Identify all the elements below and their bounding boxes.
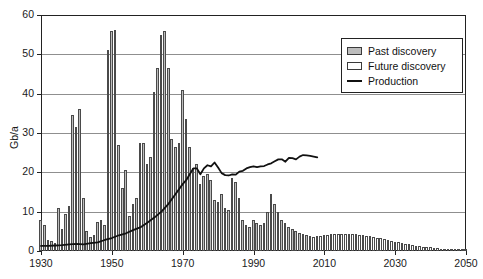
bar — [202, 176, 205, 251]
bar — [266, 212, 269, 251]
bar — [418, 246, 421, 251]
bar — [153, 92, 156, 251]
legend-item-production: Production — [347, 73, 456, 88]
bar — [160, 35, 163, 251]
bar — [270, 194, 273, 251]
bar — [110, 31, 113, 251]
bar — [107, 50, 110, 251]
x-tick-label: 1990 — [234, 258, 274, 269]
bar — [443, 249, 446, 251]
y-tick-mark — [37, 212, 41, 213]
bar — [461, 249, 464, 251]
bar — [355, 234, 358, 251]
bar — [185, 119, 188, 251]
y-tick-mark — [37, 94, 41, 95]
bar — [61, 229, 64, 251]
bar — [277, 212, 280, 251]
bar — [394, 242, 397, 251]
bar — [255, 223, 258, 251]
discovery-production-chart: 0102030405060 19301950197019902010203020… — [0, 0, 483, 279]
bar — [206, 174, 209, 251]
future-discovery-swatch-icon — [347, 62, 362, 70]
bar — [241, 220, 244, 251]
bar — [57, 208, 60, 251]
bar — [348, 234, 351, 251]
bar — [387, 240, 390, 251]
bar — [142, 143, 145, 251]
bar — [231, 178, 234, 251]
bar — [447, 249, 450, 251]
bar — [379, 238, 382, 251]
legend-item-future-discovery: Future discovery — [347, 58, 456, 73]
bar — [146, 164, 149, 251]
bar — [149, 157, 152, 251]
bar — [401, 243, 404, 251]
bar — [383, 239, 386, 251]
bar — [425, 247, 428, 251]
bar — [195, 164, 198, 251]
bar — [404, 244, 407, 251]
bar — [117, 145, 120, 251]
bar — [415, 246, 418, 252]
bar — [298, 233, 301, 251]
bar — [302, 234, 305, 251]
gridline — [42, 172, 465, 173]
x-tick-mark — [41, 251, 42, 255]
bar — [75, 127, 78, 251]
y-tick-mark — [37, 15, 41, 16]
bar — [217, 202, 220, 251]
y-tick-mark — [37, 172, 41, 173]
legend-item-past-discovery: Past discovery — [347, 43, 456, 58]
bar — [280, 220, 283, 251]
bar — [450, 249, 453, 251]
bar — [139, 143, 142, 251]
bar — [344, 234, 347, 251]
bar — [114, 30, 117, 251]
gridline — [42, 212, 465, 213]
bar — [213, 200, 216, 251]
bar — [156, 68, 159, 251]
bar — [82, 198, 85, 251]
bar — [372, 237, 375, 251]
bar — [340, 234, 343, 251]
y-tick-label: 60 — [7, 9, 34, 20]
bar — [323, 235, 326, 251]
x-tick-mark — [324, 251, 325, 255]
bar — [163, 31, 166, 251]
bar — [68, 206, 71, 251]
bar — [319, 236, 322, 251]
bar — [390, 241, 393, 251]
bar — [273, 204, 276, 251]
y-tick-label: 40 — [7, 88, 34, 99]
bar — [167, 68, 170, 251]
bar — [124, 170, 127, 251]
bar — [188, 147, 191, 251]
bar — [408, 244, 411, 251]
bar — [174, 147, 177, 251]
bar — [234, 182, 237, 251]
bar — [128, 216, 131, 251]
bar — [309, 236, 312, 251]
bar — [199, 184, 202, 251]
bar — [433, 248, 436, 251]
production-line-swatch-icon — [347, 80, 362, 82]
x-tick-mark — [466, 251, 467, 255]
bar — [287, 227, 290, 251]
bar — [47, 240, 50, 251]
y-tick-label: 20 — [7, 166, 34, 177]
gridline — [42, 133, 465, 134]
bar — [50, 241, 53, 251]
bar — [397, 242, 400, 251]
x-tick-label: 1970 — [163, 258, 203, 269]
bar — [220, 194, 223, 251]
bar — [78, 109, 81, 251]
bar — [85, 231, 88, 251]
bar — [337, 234, 340, 251]
bar — [181, 90, 184, 251]
bar — [454, 249, 457, 251]
bar — [464, 249, 467, 251]
bar — [411, 245, 414, 251]
x-tick-mark — [112, 251, 113, 255]
bar — [316, 236, 319, 251]
bar — [100, 220, 103, 251]
